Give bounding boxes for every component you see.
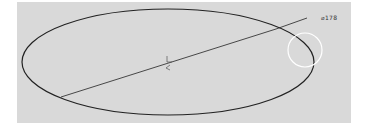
sketch-geometry [0,0,368,132]
diameter-dimension-line[interactable] [61,18,307,97]
selection-highlight-circle [288,33,322,67]
diameter-dimension-label[interactable]: ⌀178 [321,14,337,21]
